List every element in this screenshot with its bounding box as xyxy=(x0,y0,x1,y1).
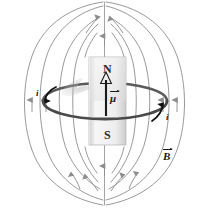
current-label-right: i xyxy=(166,113,169,122)
magnet-north-pole-label: N xyxy=(103,63,112,75)
magnet-south-pole-label: S xyxy=(104,129,111,141)
field-vector-overbar xyxy=(163,149,172,150)
moment-vector-overbar xyxy=(110,91,119,92)
current-label-left: i xyxy=(36,89,39,98)
current-arrow-left xyxy=(45,87,56,101)
magnetic-moment-label: μ xyxy=(110,93,116,104)
magnetic-field-label: B xyxy=(163,151,170,162)
magnetic-dipole-figure: N S μ B i i xyxy=(0,0,209,209)
figure-canvas xyxy=(0,0,209,209)
field-symbol: B xyxy=(163,150,170,162)
moment-symbol: μ xyxy=(110,92,116,104)
field-line-flare-bottom-right xyxy=(112,147,124,173)
field-line-flare-bottom-left xyxy=(85,147,97,173)
